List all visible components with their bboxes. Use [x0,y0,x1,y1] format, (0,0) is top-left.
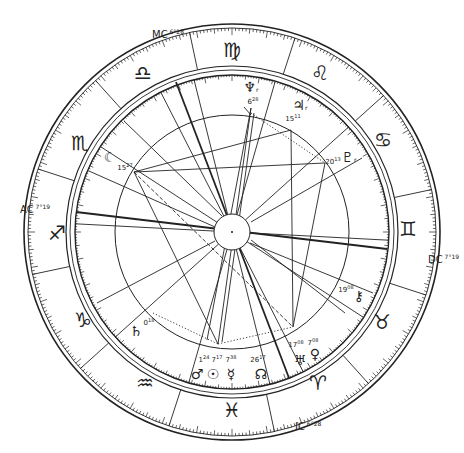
venus-degree-label: 708 [308,337,319,347]
retrograde-marker: r [305,104,307,111]
mc-angle-label: MC 6°28 [152,28,184,40]
sun-icon: ☉ [207,366,220,382]
uranus-degree-label: 1708 [288,339,303,349]
center-hub [214,214,250,250]
sign-division-line [32,267,69,275]
house-cusp-line [247,242,364,318]
neptune-icon: ♆r [243,79,258,95]
saturn-icon: ♄ [130,323,143,339]
aries-sign-icon: ♈ [309,371,327,395]
aspect-line [89,171,215,227]
aspect-line [293,163,325,327]
scorpio-sign-icon: ♏ [71,131,89,155]
chiron-icon: ⚷ [354,288,364,304]
north-node-degree-label: 2617 [250,354,265,364]
aspect-line [244,107,251,115]
sign-division-line [355,95,383,120]
mercury-degree-label: 738 [226,354,237,364]
aspect-line [250,243,373,293]
house-cusp-line [250,233,389,240]
sagittarius-sign-icon: ♐ [48,221,66,245]
taurus-sign-icon: ♉ [373,310,391,334]
mars-icon: ♂ [191,366,204,382]
virgo-sign-icon: ♍ [223,38,241,62]
sign-division-line [267,394,275,431]
sign-division-line [95,80,120,108]
house-cusp-line [161,92,224,216]
aspect-line [251,158,362,222]
north-node-icon: ☊ [255,366,267,382]
sign-division-line [190,32,198,69]
mercury-icon: ☿ [227,366,236,382]
retrograde-marker: r [354,156,356,163]
sign-division-line [390,283,426,295]
aquarius-sign-icon: ♒ [136,371,154,395]
jupiter-icon: ♃r [292,97,307,113]
sign-division-line [394,190,431,198]
chiron-degree-label: 1908 [338,284,353,294]
sign-division-line [283,38,295,74]
jupiter-degree-label: 1511 [285,113,300,123]
house-cusp-line [100,146,217,222]
capricorn-sign-icon: ♑ [74,308,92,332]
sun-degree-label: 717 [212,354,223,364]
sign-division-line [169,390,181,426]
dc-angle-label: DC 7°19 [428,253,459,265]
moon-icon: ☾ [104,149,117,165]
sign-division-line [38,169,74,181]
ic-angle-label: IC 6°28 [295,420,321,432]
libra-sign-icon: ♎ [134,61,152,85]
sign-division-line [343,355,368,383]
aspect-line [291,130,293,327]
leo-sign-icon: ♌ [311,61,329,85]
venus-icon: ♀ [310,346,320,362]
pluto-degree-label: 2013 [325,156,340,166]
ac-angle-label: AC 7°19 [20,203,50,215]
pisces-sign-icon: ♓ [223,398,241,422]
sign-division-line [80,343,108,368]
retrograde-marker: r [256,86,258,93]
neptune-degree-label: 628 [248,96,259,106]
gemini-sign-icon: ♊ [399,217,417,241]
aspect-line [97,241,215,303]
pluto-icon: ♇r [341,149,356,165]
saturn-degree-label: 018 [144,317,155,327]
house-cusp-line [75,224,214,231]
center-dot [231,231,233,233]
cancer-sign-icon: ♋ [374,128,392,152]
mars-degree-label: 124 [199,354,210,364]
natal-chart-wheel [0,0,464,453]
uranus-icon: ♅ [294,352,307,368]
moon-degree-label: 1527 [117,162,132,172]
